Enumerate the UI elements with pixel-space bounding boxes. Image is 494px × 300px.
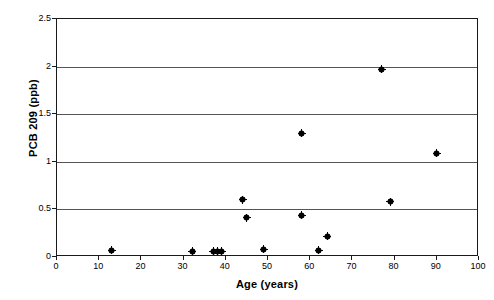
- gridline-y: [57, 162, 477, 163]
- gridline-y: [57, 209, 477, 210]
- x-axis-title: Age (years): [56, 278, 478, 290]
- data-point: [240, 197, 245, 202]
- y-tick-label: 1.5: [12, 109, 56, 118]
- plot-area: [56, 18, 478, 256]
- data-point: [434, 151, 439, 156]
- x-tick-label: 30: [163, 262, 203, 271]
- scatter-chart: PCB 209 (ppb) 00.511.522.501020304050607…: [0, 0, 494, 300]
- data-point: [261, 247, 266, 252]
- data-point: [316, 248, 321, 253]
- data-point: [299, 213, 304, 218]
- y-tick-mark: [52, 113, 56, 114]
- y-tick-label: 1: [12, 156, 56, 165]
- x-tick-label: 40: [205, 262, 245, 271]
- gridline-y: [57, 67, 477, 68]
- x-tick-label: 20: [120, 262, 160, 271]
- data-point: [219, 249, 224, 254]
- y-tick-label: 0: [12, 252, 56, 261]
- data-point: [388, 199, 393, 204]
- data-point: [109, 248, 114, 253]
- x-tick-label: 0: [36, 262, 76, 271]
- data-point: [244, 215, 249, 220]
- data-point: [379, 67, 384, 72]
- y-tick-mark: [52, 18, 56, 19]
- x-tick-mark: [225, 256, 226, 260]
- x-tick-mark: [436, 256, 437, 260]
- y-tick-label: 0.5: [12, 204, 56, 213]
- y-tick-mark: [52, 208, 56, 209]
- gridline-y: [57, 114, 477, 115]
- x-tick-label: 90: [416, 262, 456, 271]
- data-point: [325, 234, 330, 239]
- x-tick-mark: [478, 256, 479, 260]
- data-point: [299, 131, 304, 136]
- x-tick-label: 80: [374, 262, 414, 271]
- data-point: [190, 249, 195, 254]
- x-tick-mark: [267, 256, 268, 260]
- x-tick-label: 50: [247, 262, 287, 271]
- y-tick-mark: [52, 66, 56, 67]
- y-tick-mark: [52, 161, 56, 162]
- x-tick-mark: [351, 256, 352, 260]
- x-tick-label: 10: [78, 262, 118, 271]
- y-tick-label: 2.5: [12, 14, 56, 23]
- x-tick-mark: [56, 256, 57, 260]
- x-tick-mark: [183, 256, 184, 260]
- y-tick-label: 2: [12, 61, 56, 70]
- x-tick-mark: [394, 256, 395, 260]
- x-tick-label: 60: [289, 262, 329, 271]
- x-tick-mark: [98, 256, 99, 260]
- x-tick-label: 70: [331, 262, 371, 271]
- x-tick-mark: [140, 256, 141, 260]
- x-tick-label: 100: [458, 262, 494, 271]
- x-tick-mark: [309, 256, 310, 260]
